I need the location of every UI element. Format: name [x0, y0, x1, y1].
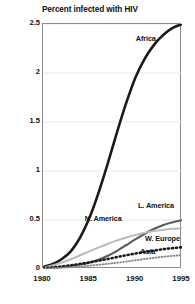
series-label-asia: Asia: [140, 247, 155, 256]
series-label-w-europe: W. Europe: [145, 234, 180, 243]
y-tick-label: 1: [2, 166, 40, 174]
x-tick-label: 1995: [161, 274, 195, 283]
y-axis-tick-labels: 00.511.522.5: [0, 0, 40, 304]
x-tick-label: 1990: [115, 274, 155, 283]
series-label-africa: Africa: [136, 34, 156, 43]
plot-area: [42, 23, 181, 268]
hiv-infection-line-chart: Percent infected with HIV 00.511.522.5 1…: [0, 0, 195, 304]
y-tick-label: 0.5: [2, 215, 40, 223]
chart-title: Percent infected with HIV: [42, 5, 138, 14]
series-label-l-america: L. America: [138, 201, 174, 210]
x-tick-label: 1980: [22, 274, 62, 283]
x-tick-label: 1985: [68, 274, 108, 283]
y-tick-label: 0: [2, 264, 40, 272]
y-tick-label: 2.5: [2, 19, 40, 27]
y-tick-label: 2: [2, 68, 40, 76]
series-label-n-america: N. America: [85, 214, 122, 223]
y-tick-label: 1.5: [2, 117, 40, 125]
plot-svg: [43, 24, 182, 269]
